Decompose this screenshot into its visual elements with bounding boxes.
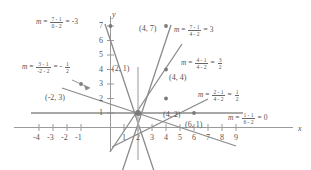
slope-equation-neg-half: m = 3 - 1 -2 - 2 = - 1 2: [22, 61, 71, 74]
equation-m-symbol: m: [174, 25, 179, 34]
equation-fraction: 3 - 1 -2 - 2: [36, 61, 50, 74]
fraction-denominator: 6 - 2: [242, 118, 254, 125]
x-tick-label--2: -2: [61, 133, 68, 142]
x-tick-label--3: -3: [47, 133, 54, 142]
result-denominator: 2: [235, 95, 240, 102]
slope-equation-zero: m = 1 - 1 6 - 2 = 0: [228, 112, 267, 125]
equation-equals: =: [235, 113, 239, 122]
slope-equation-three-halves: m = 4 - 1 4 - 2 = 3 2: [181, 57, 223, 70]
slope-equation-3: m = 7 - 1 4 - 2 = 3: [174, 24, 213, 37]
equation-fraction: 2 - 1 4 - 2: [212, 89, 224, 102]
equation-equals-2: =: [66, 17, 70, 26]
point-label-2-1: (2, 1): [112, 64, 129, 73]
x-tick-label--1: -1: [75, 133, 82, 142]
x-tick-label-9: 9: [234, 133, 238, 142]
slope-equation-half: m = 2 - 1 4 - 2 = 1 2: [198, 89, 240, 102]
result-denominator: 2: [218, 63, 223, 70]
fraction-numerator: 1 - 1: [242, 112, 254, 118]
point-marker-0-7: [109, 24, 113, 28]
equation-equals: =: [205, 90, 209, 99]
equation-fraction: 4 - 1 4 - 2: [195, 57, 207, 70]
result-denominator: 2: [65, 67, 70, 74]
point-marker-2-1: [135, 110, 141, 116]
y-tick-label-3: 3: [99, 79, 103, 88]
slope-illustration-figure: x y -4 -3 -2 -1 1 2 3 4 5 6 7 8 9 1 2 3 …: [0, 0, 311, 170]
fraction-denominator: 4 - 2: [212, 95, 224, 102]
y-tick-label-5: 5: [99, 50, 103, 59]
equation-result: 0: [264, 113, 268, 122]
x-tick-label-1: 1: [122, 133, 126, 142]
equation-equals-2: =: [204, 25, 208, 34]
x-tick-label-3: 3: [150, 133, 154, 142]
x-tick-label--4: -4: [33, 133, 40, 142]
fraction-denominator: 4 - 2: [195, 63, 207, 70]
equation-m-symbol: m: [198, 90, 203, 99]
equation-m-symbol: m: [181, 58, 186, 67]
equation-m-symbol: m: [228, 113, 233, 122]
y-tick-label-6: 6: [99, 36, 103, 45]
slope-equation-neg3: m = 7 - 1 0 - 2 = -3: [36, 16, 78, 29]
line-slope-three-halves: [110, 44, 182, 152]
equation-equals: =: [188, 58, 192, 67]
equation-result: 3: [210, 25, 214, 34]
y-tick-label-7: 7: [99, 21, 103, 30]
fraction-numerator: 2 - 1: [212, 89, 224, 95]
equation-equals-2: =: [228, 90, 232, 99]
fraction-denominator: 0 - 2: [50, 22, 62, 29]
point-label-4-2: (4, 2): [163, 110, 180, 119]
y-axis-label: y: [111, 10, 116, 19]
x-tick-label-2: 2: [136, 133, 140, 142]
equation-equals: =: [43, 17, 47, 26]
point-label-4-4: (4, 4): [169, 73, 186, 82]
point-label-neg2-3: (-2, 3): [45, 93, 65, 102]
equation-result-fraction: 3 2: [218, 57, 223, 70]
x-tick-label-4: 4: [164, 133, 168, 142]
equation-fraction: 7 - 1 4 - 2: [188, 24, 200, 37]
x-tick-label-7: 7: [206, 133, 210, 142]
y-tick-label-1: 1: [99, 108, 103, 117]
fraction-numerator: 4 - 1: [195, 57, 207, 63]
fraction-numerator: 7 - 1: [188, 24, 200, 30]
equation-result: -3: [72, 17, 78, 26]
equation-result-fraction: 1 2: [235, 89, 240, 102]
fraction-numerator: 7 - 1: [50, 16, 62, 22]
equation-result-sign: -: [60, 62, 63, 71]
leader-arrowhead: [84, 85, 90, 90]
equation-m-symbol: m: [36, 17, 41, 26]
equation-fraction: 7 - 1 0 - 2: [50, 16, 62, 29]
equation-result-fraction: 1 2: [65, 61, 70, 74]
x-tick-label-5: 5: [178, 133, 182, 142]
equation-equals: =: [29, 62, 33, 71]
point-label-6-1: (6, 1): [185, 120, 202, 129]
point-label-4-7: (4, 7): [139, 24, 156, 33]
equation-m-symbol: m: [22, 62, 27, 71]
equation-equals-2: =: [53, 62, 57, 71]
axes-group: [14, 16, 293, 152]
point-marker-6-1: [192, 111, 196, 115]
x-tick-label-8: 8: [220, 133, 224, 142]
point-marker-4-4: [164, 68, 168, 72]
equation-equals-2: =: [258, 113, 262, 122]
equation-equals: =: [181, 25, 185, 34]
fraction-denominator: 4 - 2: [188, 30, 200, 37]
y-tick-label-2: 2: [99, 94, 103, 103]
y-tick-label-4: 4: [99, 65, 103, 74]
point-marker-4-2: [164, 97, 168, 101]
equation-fraction: 1 - 1 6 - 2: [242, 112, 254, 125]
point-marker-4-7: [164, 24, 168, 28]
equation-equals-2: =: [211, 58, 215, 67]
fraction-numerator: 3 - 1: [36, 61, 50, 67]
fraction-denominator: -2 - 2: [36, 67, 50, 74]
x-tick-label-6: 6: [192, 133, 196, 142]
x-axis-label: x: [297, 124, 302, 133]
